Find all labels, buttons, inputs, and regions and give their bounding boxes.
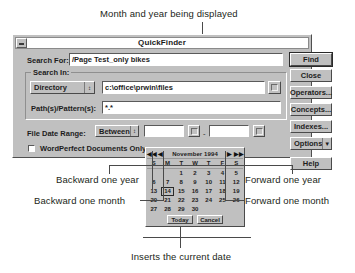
calendar-day-cell[interactable]: 4: [216, 169, 230, 178]
chevron-updown-icon: ↕: [130, 126, 138, 136]
calendar-day-blank: [216, 205, 230, 214]
calendar-day-blank: [229, 205, 243, 214]
date-range-separator: -: [203, 129, 206, 138]
calendar-day-cell[interactable]: 1: [174, 169, 188, 178]
help-button[interactable]: Help: [290, 157, 332, 170]
calendar-day-cell[interactable]: 27: [147, 205, 161, 214]
operators-button[interactable]: Operators...: [290, 86, 332, 99]
calendar-day-cell[interactable]: 29: [174, 205, 188, 214]
file-date-range-label: File Date Range:: [27, 129, 86, 138]
calendar-day-cell[interactable]: 3: [202, 169, 216, 178]
quickfinder-dialog: QuickFinder Search For: /Page Test_only …: [12, 34, 312, 158]
calendar-day-cell[interactable]: 9: [188, 178, 202, 187]
calendar-header: ◀◀ ◀ November 1994 ▶ ▶▶: [147, 149, 243, 159]
calendar-day-cell[interactable]: 22: [174, 196, 188, 205]
date-range-operator-value: Between: [96, 127, 130, 136]
leader-line-today-h: [143, 237, 251, 238]
calendar-day-header: T: [202, 159, 216, 169]
calendar-day-headers: SMTWTFS: [147, 159, 243, 169]
annotation-month-year: Month and year being displayed: [100, 8, 238, 19]
search-in-label: Search In:: [31, 68, 71, 77]
leader-line-prev-year-target: [152, 151, 153, 189]
calendar-day-cell[interactable]: 6: [147, 178, 161, 187]
title-bar: QuickFinder: [15, 37, 309, 49]
annotation-backward-year: Backward one year: [56, 174, 139, 185]
patterns-input[interactable]: *.*: [102, 101, 281, 114]
wordperfect-only-checkbox[interactable]: [28, 145, 35, 152]
leader-line-prev-month-target: [163, 151, 164, 200]
annotation-forward-month: Forward one month: [245, 195, 329, 206]
calendar-day-cell[interactable]: 16: [188, 187, 202, 196]
calendar-month-year: November 1994: [165, 151, 225, 157]
calendar-day-header: S: [147, 159, 161, 169]
leader-line-forward-year-h: [216, 165, 293, 166]
leader-line-backward-month: [140, 200, 164, 201]
leader-line-today-v: [180, 226, 181, 248]
date-from-input[interactable]: [144, 125, 184, 137]
calendar-day-cell[interactable]: 24: [202, 196, 216, 205]
chevron-updown-icon: ↕: [84, 82, 94, 93]
calendar-day-cell[interactable]: 19: [229, 187, 243, 196]
calendar-day-cell[interactable]: 23: [188, 196, 202, 205]
today-button[interactable]: Today: [167, 215, 193, 224]
wordperfect-only-label: WordPerfect Documents Only: [40, 144, 146, 153]
calendar-day-cell[interactable]: 17: [202, 187, 216, 196]
calendar-day-blank: [147, 169, 161, 178]
leader-line-next-month-target: [225, 151, 226, 200]
options-button[interactable]: Options ▼: [290, 137, 332, 150]
options-label: Options: [291, 139, 322, 148]
search-in-type-select[interactable]: Directory ↕: [30, 81, 95, 94]
calendar-day-header: W: [188, 159, 202, 169]
browse-icon: [271, 84, 278, 91]
patterns-label: Path(s)/Pattern(s):: [31, 104, 96, 113]
calendar-icon: [256, 128, 263, 135]
leader-line-forward-year-v: [292, 165, 293, 174]
leader-line-backward-year-v: [109, 165, 110, 174]
date-range-operator-select[interactable]: Between ↕: [95, 125, 139, 137]
find-button[interactable]: Find: [290, 53, 332, 66]
calendar-day-cell[interactable]: 11: [216, 178, 230, 187]
indexes-button[interactable]: Indexes...: [290, 120, 332, 133]
date-from-calendar-button[interactable]: [188, 125, 200, 137]
cancel-button[interactable]: Cancel: [197, 215, 223, 224]
calendar-day-cell[interactable]: 8: [174, 178, 188, 187]
calendar-footer: Today Cancel: [147, 215, 243, 224]
concepts-button[interactable]: Concepts...: [290, 103, 332, 116]
next-year-button[interactable]: ▶▶: [234, 150, 243, 158]
calendar-day-grid: 1234567891011121314151617181920212223242…: [147, 169, 243, 214]
search-in-path-input[interactable]: c:\office\prwin\files: [102, 81, 265, 94]
calendar-day-cell[interactable]: 12: [229, 178, 243, 187]
leader-line-forward-month: [225, 200, 245, 201]
calendar-day-cell[interactable]: 5: [229, 169, 243, 178]
calendar-day-header: F: [216, 159, 230, 169]
annotation-inserts-current-date: Inserts the current date: [131, 251, 231, 262]
calendar-day-header: T: [174, 159, 188, 169]
system-menu-icon[interactable]: [16, 38, 27, 48]
dialog-title: QuickFinder: [27, 38, 297, 48]
chevron-down-icon: ▼: [322, 138, 331, 149]
date-to-input[interactable]: [209, 125, 249, 137]
calendar-icon: [191, 128, 198, 135]
calendar-day-cell[interactable]: 13: [147, 187, 161, 196]
calendar-day-cell[interactable]: 10: [202, 178, 216, 187]
close-button[interactable]: Close: [290, 69, 332, 82]
next-month-button[interactable]: ▶: [225, 150, 234, 158]
annotation-forward-year: Forward one year: [245, 174, 321, 185]
calendar-day-cell[interactable]: 15: [174, 187, 188, 196]
calendar-day-header: S: [229, 159, 243, 169]
date-to-calendar-button[interactable]: [253, 125, 265, 137]
calendar-day-cell[interactable]: 2: [188, 169, 202, 178]
calendar-day-cell[interactable]: 30: [188, 205, 202, 214]
calendar-day-blank: [202, 205, 216, 214]
annotation-backward-month: Backward one month: [34, 195, 125, 206]
search-for-input[interactable]: /Page Test_only bikes: [69, 53, 283, 66]
search-for-label: Search For:: [27, 56, 69, 65]
calendar-popup: ◀◀ ◀ November 1994 ▶ ▶▶ SMTWTFS 12345678…: [145, 147, 245, 227]
calendar-day-cell[interactable]: 18: [216, 187, 230, 196]
calendar-day-cell[interactable]: 28: [161, 205, 175, 214]
search-in-browse-button[interactable]: [268, 81, 281, 94]
search-in-type-value: Directory: [31, 83, 84, 92]
